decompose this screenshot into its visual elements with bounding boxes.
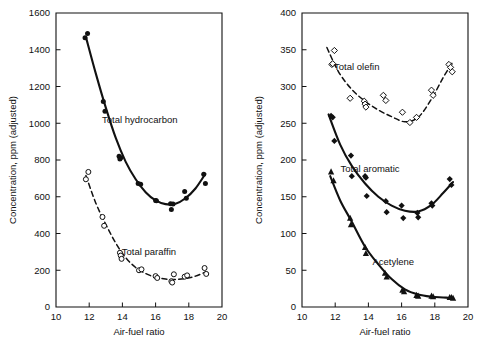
- data-point: [348, 152, 354, 158]
- data-point: [139, 267, 144, 272]
- x-tick-label: 10: [51, 311, 62, 322]
- series-total-olefin: Total olefin: [327, 47, 455, 125]
- y-axis: 050100150200250300350400Concentration, p…: [253, 7, 307, 312]
- y-tick-label: 200: [34, 265, 50, 276]
- data-point: [331, 47, 337, 53]
- x-tick-label: 12: [84, 311, 95, 322]
- data-point: [185, 273, 190, 278]
- data-point: [184, 196, 189, 201]
- data-point: [400, 215, 406, 221]
- data-point: [182, 189, 187, 194]
- data-point: [155, 275, 160, 280]
- series-line: [330, 176, 453, 298]
- x-tick-label: 16: [396, 311, 407, 322]
- y-tick-label: 1200: [29, 81, 50, 92]
- data-point: [384, 209, 390, 215]
- x-tick-label: 16: [150, 311, 161, 322]
- y-axis: 02004006008001000120014001600Concentrati…: [7, 7, 61, 312]
- data-point: [328, 168, 334, 174]
- y-tick-label: 0: [291, 301, 296, 312]
- data-point: [204, 271, 209, 276]
- data-point: [347, 95, 353, 101]
- series-acetylene: Acetylene: [328, 168, 456, 300]
- x-tick-label: 14: [363, 311, 374, 322]
- data-point: [102, 223, 107, 228]
- series-label: Total hydrocarbon: [102, 114, 178, 125]
- data-point: [154, 198, 159, 203]
- chart-panel-left: 101214161820Air-fuel ratio02004006008001…: [0, 0, 244, 351]
- chart-right-canvas: 101214161820Air-fuel ratio05010015020025…: [244, 0, 489, 351]
- y-axis-title: Concentration, ppm (adjusted): [253, 96, 264, 224]
- data-point: [169, 207, 174, 212]
- series-total-aromatic: Total aromatic: [328, 113, 455, 221]
- axes-box: [56, 13, 222, 307]
- y-axis-title: Concentration, ppm (adjusted): [7, 96, 18, 224]
- x-axis-title: Air-fuel ratio: [113, 326, 164, 337]
- y-tick-label: 300: [280, 81, 296, 92]
- y-tick-label: 1400: [29, 44, 50, 55]
- data-point: [102, 109, 107, 114]
- chart-left-svg: 101214161820Air-fuel ratio02004006008001…: [0, 0, 244, 351]
- data-point: [138, 182, 143, 187]
- y-tick-label: 150: [280, 191, 296, 202]
- x-tick-label: 20: [217, 311, 228, 322]
- data-point: [118, 155, 123, 160]
- series-label: Total aromatic: [340, 163, 399, 174]
- data-point: [399, 109, 405, 115]
- data-point: [83, 177, 88, 182]
- data-point: [100, 214, 105, 219]
- data-point: [171, 272, 176, 277]
- data-point: [202, 266, 207, 271]
- chart-left-canvas: 101214161820Air-fuel ratio02004006008001…: [0, 0, 244, 351]
- y-tick-label: 100: [280, 228, 296, 239]
- chart-panel-right: 101214161820Air-fuel ratio05010015020025…: [244, 0, 489, 351]
- x-tick-label: 20: [463, 311, 474, 322]
- y-tick-label: 0: [45, 301, 50, 312]
- series-label: Total olefin: [334, 61, 379, 72]
- plot-frame: [56, 13, 222, 307]
- x-tick-label: 14: [117, 311, 128, 322]
- y-tick-label: 1000: [29, 118, 50, 129]
- x-axis: 101214161820Air-fuel ratio: [297, 303, 474, 338]
- series-total-hydrocarbon: Total hydrocarbon: [83, 31, 208, 212]
- y-tick-label: 400: [280, 7, 296, 18]
- x-axis-title: Air-fuel ratio: [359, 326, 410, 337]
- data-point: [447, 176, 453, 182]
- series-total-paraffin: Total paraffin: [83, 169, 208, 285]
- x-tick-label: 10: [297, 311, 308, 322]
- data-point: [170, 280, 175, 285]
- y-tick-label: 1600: [29, 7, 50, 18]
- x-axis: 101214161820Air-fuel ratio: [51, 303, 228, 338]
- series-line: [327, 48, 453, 122]
- y-tick-label: 200: [280, 154, 296, 165]
- series-label: Total paraffin: [122, 246, 176, 257]
- data-point: [399, 202, 405, 208]
- data-point: [364, 193, 370, 199]
- series-label: Acetylene: [372, 256, 414, 267]
- figure-container: 101214161820Air-fuel ratio02004006008001…: [0, 0, 489, 351]
- y-tick-label: 600: [34, 191, 50, 202]
- y-tick-label: 400: [34, 228, 50, 239]
- data-point: [415, 214, 421, 220]
- y-tick-label: 50: [285, 265, 296, 276]
- data-point: [101, 99, 106, 104]
- x-tick-label: 18: [430, 311, 441, 322]
- chart-right-svg: 101214161820Air-fuel ratio05010015020025…: [244, 0, 489, 351]
- y-tick-label: 250: [280, 118, 296, 129]
- y-tick-label: 350: [280, 44, 296, 55]
- x-tick-label: 12: [330, 311, 341, 322]
- data-point: [331, 138, 337, 144]
- data-point: [86, 169, 91, 174]
- y-tick-label: 800: [34, 154, 50, 165]
- data-point: [203, 181, 208, 186]
- data-point: [85, 31, 90, 36]
- data-point: [171, 202, 176, 207]
- data-point: [83, 35, 88, 40]
- data-point: [201, 172, 206, 177]
- x-tick-label: 18: [184, 311, 195, 322]
